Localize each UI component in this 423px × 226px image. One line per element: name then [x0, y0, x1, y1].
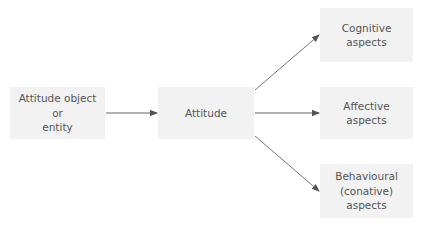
node-label-line: entity: [42, 120, 72, 135]
node-label-line: or: [52, 106, 63, 121]
node-label-line: (conative): [340, 184, 393, 199]
node-label-line: aspects: [346, 35, 386, 50]
node-label-line: aspects: [346, 198, 386, 213]
node-attitude: Attitude: [158, 87, 254, 139]
node-behavioural: Behavioural (conative) aspects: [320, 164, 413, 218]
node-label-line: Behavioural: [335, 169, 398, 184]
node-attitude-object: Attitude object or entity: [10, 87, 105, 139]
node-label-line: Cognitive: [342, 21, 392, 36]
node-label-line: Attitude: [185, 106, 227, 121]
arrow-attitude-to-behavioural: [255, 136, 319, 191]
node-affective: Affective aspects: [320, 87, 413, 139]
node-label-line: aspects: [346, 113, 386, 128]
node-label-line: Attitude object: [19, 91, 97, 106]
node-cognitive: Cognitive aspects: [320, 8, 413, 62]
arrow-attitude-to-cognitive: [255, 35, 319, 90]
node-label-line: Affective: [343, 99, 389, 114]
